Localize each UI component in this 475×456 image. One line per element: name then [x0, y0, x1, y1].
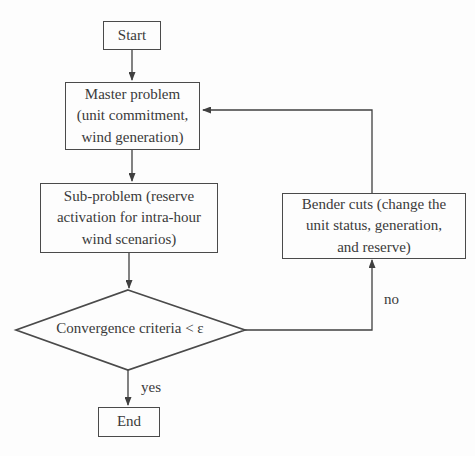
node-start-label: Start — [118, 25, 146, 46]
node-start: Start — [103, 21, 161, 50]
node-end-label: End — [117, 411, 141, 432]
node-master-problem: Master problem (unit commitment, wind ge… — [65, 82, 200, 150]
edge-bender-to-master — [203, 110, 372, 193]
node-end: End — [98, 407, 160, 437]
decision-diamond-shape — [16, 290, 245, 370]
node-sub-problem: Sub-problem (reserve activation for intr… — [40, 183, 218, 253]
edge-label-yes: yes — [141, 379, 161, 396]
node-sub-problem-label: Sub-problem (reserve activation for intr… — [57, 186, 201, 250]
edge-label-no: no — [384, 291, 399, 308]
node-bender-cuts-label: Bender cuts (change the unit status, gen… — [302, 194, 447, 258]
edge-decision-to-bender — [245, 260, 372, 330]
flowchart-canvas: Start Master problem (unit commitment, w… — [0, 0, 475, 456]
node-bender-cuts: Bender cuts (change the unit status, gen… — [282, 193, 466, 259]
node-master-problem-label: Master problem (unit commitment, wind ge… — [77, 84, 189, 148]
